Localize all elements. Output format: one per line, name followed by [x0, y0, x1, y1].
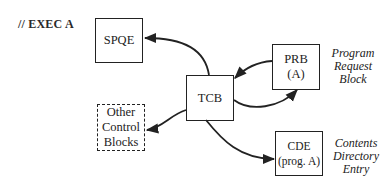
- node-tcb-label: TCB: [198, 91, 222, 106]
- node-ocb-label-line2: Control: [102, 120, 140, 135]
- edge-tcb-to-prb: [234, 90, 297, 107]
- node-cde: CDE (prog. A): [275, 131, 323, 176]
- caption-prb: Program Request Block: [327, 47, 379, 86]
- node-cde-label-line2: (prog. A): [278, 154, 320, 169]
- edge-prb-to-tcb: [235, 61, 272, 78]
- caption-cde: Contents Directory Entry: [329, 137, 383, 176]
- node-prb-label-line1: PRB: [284, 52, 308, 67]
- edge-tcb-to-spqe: [145, 38, 209, 75]
- edge-tcb-to-ocb: [147, 110, 186, 130]
- diagram-title: // EXEC A: [18, 17, 74, 32]
- node-other-control-blocks: Other Control Blocks: [97, 104, 145, 151]
- caption-cde-line3: Entry: [329, 163, 383, 176]
- node-spqe-label: SPQE: [104, 33, 135, 48]
- node-prb: PRB (A): [272, 44, 320, 90]
- node-ocb-label-line1: Other: [107, 105, 135, 120]
- node-cde-label-line1: CDE: [288, 139, 311, 154]
- node-prb-label-line2: (A): [287, 67, 304, 82]
- edge-tcb-to-cde: [206, 120, 274, 159]
- node-spqe: SPQE: [95, 18, 143, 63]
- node-tcb: TCB: [186, 75, 234, 121]
- caption-prb-line3: Block: [327, 73, 379, 86]
- node-ocb-label-line3: Blocks: [104, 135, 139, 150]
